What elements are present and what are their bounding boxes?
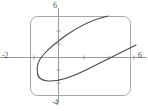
y-axis-min-label: -4 xyxy=(52,99,58,107)
x-axis-min-label: -2 xyxy=(2,52,8,60)
y-axis-max-label: 6 xyxy=(53,2,57,10)
plot-figure: 6 -2 -4 6 xyxy=(0,0,148,111)
plot-canvas xyxy=(0,0,148,111)
x-axis-max-label: 6 xyxy=(138,52,142,60)
curve-lower-branch xyxy=(37,45,136,81)
plot-frame xyxy=(31,17,131,96)
